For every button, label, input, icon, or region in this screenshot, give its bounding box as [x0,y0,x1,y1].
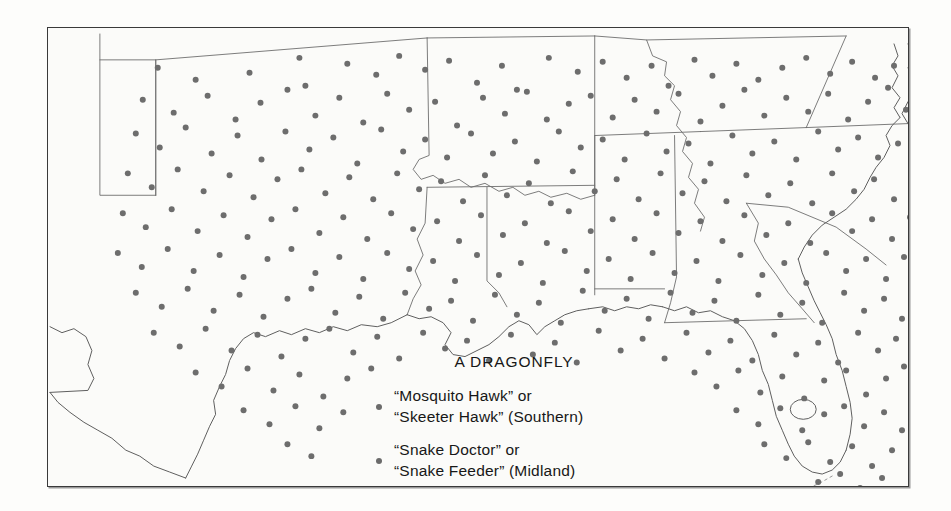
data-dot [316,230,322,236]
data-dot [340,214,346,220]
data-dot [845,117,851,123]
data-dot [546,55,552,61]
data-dot [306,146,312,152]
data-dot [692,370,698,376]
data-dot [899,316,905,322]
data-dot [296,55,302,61]
data-dot [600,59,606,65]
data-dot [570,168,576,174]
data-dot [432,99,438,105]
data-dot [201,188,207,194]
data-dot [729,133,735,139]
filled-dot-icon [376,458,382,464]
data-dot [624,75,630,81]
data-dot [701,178,707,184]
data-dot [793,156,799,162]
data-dot [159,304,165,310]
data-dot [666,83,672,89]
data-dot [380,316,386,322]
data-dot [761,113,767,119]
data-dot [444,154,450,160]
data-dot [500,232,506,238]
data-dot [636,196,642,202]
data-dot [737,252,743,258]
data-dot [763,232,769,238]
data-dot [799,427,805,433]
data-dot [302,83,308,89]
data-dot [693,258,699,264]
data-dot [749,358,755,364]
data-dot [777,405,783,411]
data-dot [759,272,765,278]
data-dot [374,334,380,340]
data-dot [454,123,460,129]
data-dot [901,364,907,370]
data-dot [384,91,390,97]
data-dot [474,80,480,86]
data-dot [258,100,264,106]
data-dot [891,63,897,69]
data-dot [274,176,280,182]
data-dot [155,65,161,71]
data-dot [588,228,594,234]
data-dot [779,373,785,379]
data-dot [298,166,304,172]
data-dot [402,290,408,296]
data-dot [438,178,444,184]
data-dot [640,336,646,342]
data-dot [733,61,739,67]
data-dot [741,212,747,218]
data-dot [373,72,379,78]
legend-line-1: “Mosquito Hawk” or [394,387,532,404]
data-dot [478,212,484,218]
data-dot [684,330,690,336]
data-dot [676,91,682,97]
data-dot [452,278,458,284]
data-dot [680,190,686,196]
data-dot [658,170,664,176]
data-dot [697,119,703,125]
data-dot [474,252,480,258]
data-dot [183,125,189,131]
data-dot [741,87,747,93]
data-dot [241,274,247,280]
data-dot [344,61,350,67]
data-dot [869,216,875,222]
legend-marker-southern [364,404,394,410]
data-dot [266,421,272,427]
data-dot [536,300,542,306]
map-legend: A DRAGONFLY “Mosquito Hawk” or “Skeeter … [364,353,664,487]
data-dot [707,160,713,166]
data-dot [480,95,486,101]
data-dot [502,111,508,117]
data-dot [370,196,376,202]
data-dot [322,190,328,196]
data-dot [596,328,602,334]
data-dot [360,120,366,126]
legend-entry-southern: “Mosquito Hawk” or “Skeeter Hawk” (South… [364,386,664,427]
data-dot [139,264,145,270]
data-dot [308,286,314,292]
data-dot [805,439,811,445]
data-dot [552,340,558,346]
state-boundaries [100,34,908,323]
data-dot [149,184,155,190]
data-dot [668,290,674,296]
data-dot [743,172,749,178]
data-dot [871,176,877,182]
data-dot [733,318,739,324]
data-dot [907,214,908,220]
data-dot [544,240,550,246]
data-dot [821,377,827,383]
data-dot [151,330,157,336]
data-dot [719,238,725,244]
data-dot [191,268,197,274]
data-dot [815,129,821,135]
data-dot [211,308,217,314]
data-dot [709,73,715,79]
legend-entry-midland: “Snake Doctor” or “Snake Feeder” (Midlan… [364,440,664,481]
data-dot [578,144,584,150]
data-dot [133,131,139,137]
data-dot [378,127,384,133]
legend-title: A DRAGONFLY [364,353,664,371]
